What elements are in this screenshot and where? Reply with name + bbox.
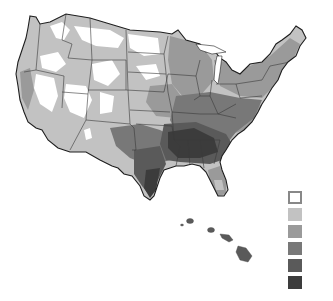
legend [288, 191, 304, 293]
island-maui-molokai [220, 234, 233, 242]
legend-swatch-class-2 [288, 225, 302, 238]
legend-swatch-class-3 [288, 242, 302, 255]
legend-swatch-class-1 [288, 208, 302, 221]
us-mainland [16, 14, 306, 200]
legend-swatch-class-4 [288, 259, 302, 272]
figure-caption [4, 292, 329, 301]
island-oahu [208, 228, 215, 233]
hawaii-inset [181, 219, 253, 263]
zone-class-2 [214, 38, 300, 98]
legend-swatch-class-5 [288, 276, 302, 289]
island-hawaii [236, 246, 252, 262]
legend-swatch-class-0 [288, 191, 302, 204]
island-kauai [187, 219, 194, 224]
us-choropleth-map [0, 0, 333, 301]
island-niihau [181, 224, 184, 226]
